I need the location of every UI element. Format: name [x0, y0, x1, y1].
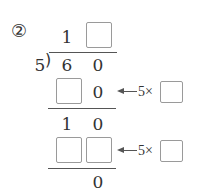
dividend-ones: 0	[92, 57, 104, 74]
step2-product-tens-answer-box[interactable]	[56, 137, 82, 163]
problem-number: ②	[11, 22, 27, 40]
arrow-shaft	[123, 150, 137, 151]
subtraction-line-2	[48, 168, 116, 169]
step1-product-ones: 0	[92, 84, 104, 101]
step2-multiplier-answer-box[interactable]	[160, 140, 183, 162]
division-bracket: )	[45, 52, 51, 68]
quotient-ones-answer-box[interactable]	[86, 22, 112, 48]
step1-hint-label: 5×	[138, 85, 153, 99]
arrow-shaft	[123, 91, 137, 92]
step2-hint-label: 5×	[138, 144, 153, 158]
quotient-tens: 1	[61, 29, 73, 46]
step2-product-ones-answer-box[interactable]	[86, 137, 112, 163]
remainder1-tens: 1	[61, 116, 73, 133]
remainder1-ones: 0	[92, 116, 104, 133]
subtraction-line-1	[48, 108, 116, 109]
dividend-tens: 6	[61, 57, 73, 74]
step1-multiplier-answer-box[interactable]	[160, 81, 183, 103]
final-remainder: 0	[92, 174, 104, 190]
step1-product-tens-answer-box[interactable]	[56, 78, 82, 104]
division-bar	[49, 52, 117, 53]
